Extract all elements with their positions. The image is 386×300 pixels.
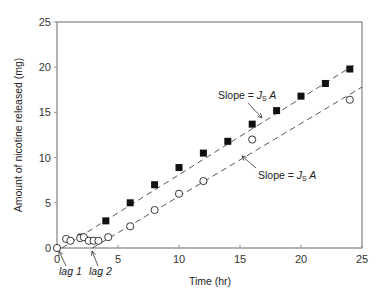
slope-a: A xyxy=(307,169,317,181)
filled-square-point xyxy=(249,121,256,128)
filled-square-point xyxy=(200,150,207,157)
lag-1-label: lag 1 xyxy=(59,265,82,277)
slope-prefix: Slope = xyxy=(258,169,297,181)
slope-label-lower: Slope = JS A xyxy=(258,169,316,182)
open-circle-point xyxy=(53,244,60,251)
slope-prefix: Slope = xyxy=(218,89,257,101)
y-tick-label: 0 xyxy=(45,242,51,254)
y-tick-label: 5 xyxy=(45,197,51,209)
x-tick-label: 20 xyxy=(295,253,307,265)
open-circle-point xyxy=(67,237,74,244)
filled-square-point xyxy=(273,107,280,114)
open-circle-point xyxy=(200,178,207,185)
axes: 05101520250510152025 xyxy=(39,16,368,265)
slope-lower-arrow xyxy=(242,156,256,168)
y-tick-label: 25 xyxy=(39,16,51,28)
filled-square-point xyxy=(102,217,109,224)
slope-label-upper: Slope = JS A xyxy=(218,89,276,102)
filled-square-point xyxy=(176,164,183,171)
slope-a: A xyxy=(267,89,277,101)
chart: 05101520250510152025 Time (hr) Amount of… xyxy=(0,0,386,300)
open-circle-point xyxy=(95,237,102,244)
open-circle-point xyxy=(346,96,353,103)
open-circle-point xyxy=(175,190,182,197)
x-tick-label: 10 xyxy=(173,253,185,265)
plot-frame xyxy=(57,22,362,248)
y-tick-label: 15 xyxy=(39,106,51,118)
open-circle-point xyxy=(249,136,256,143)
filled-square-point xyxy=(346,66,353,73)
y-tick-label: 10 xyxy=(39,152,51,164)
x-axis-title: Time (hr) xyxy=(189,275,231,287)
lag-2-label: lag 2 xyxy=(89,265,112,277)
open-circle-point xyxy=(127,223,134,230)
open-circle-point xyxy=(151,206,158,213)
filled-square-point xyxy=(322,80,329,87)
x-tick-label: 25 xyxy=(356,253,368,265)
y-axis-title: Amount of nicotine released (mg) xyxy=(12,58,24,213)
open-circle-point xyxy=(105,234,112,241)
filled-square-point xyxy=(127,199,134,206)
filled-square-point xyxy=(224,138,231,145)
slope-upper-arrow xyxy=(248,103,262,118)
x-tick-label: 15 xyxy=(234,253,246,265)
x-tick-label: 5 xyxy=(115,253,121,265)
filled-square-point xyxy=(298,93,305,100)
y-tick-label: 20 xyxy=(39,61,51,73)
filled-square-point xyxy=(151,181,158,188)
